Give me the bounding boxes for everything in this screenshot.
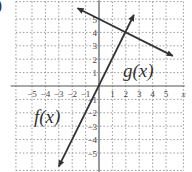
x-tick-label: −5 [27, 89, 37, 99]
x-axis-label: x [180, 89, 185, 99]
y-tick-label: 4 [93, 28, 98, 38]
y-tick-label: −5 [87, 149, 97, 159]
x-tick-label: −2 [67, 89, 77, 99]
x-tick-label: 3 [137, 89, 142, 99]
x-tick-label: 1 [110, 89, 115, 99]
x-tick-label: 2 [124, 89, 129, 99]
g-function-label: g(x) [123, 60, 154, 82]
x-tick-label: −4 [41, 89, 51, 99]
x-tick-label: 5 [164, 89, 169, 99]
y-tick-label: 3 [93, 41, 98, 51]
y-tick-label: 2 [93, 55, 98, 65]
y-tick-label: −4 [87, 135, 97, 145]
y-tick-label: −2 [87, 108, 97, 118]
coordinate-plane: −5−4−3−2−11234554321−1−2−3−4−5x [0, 0, 192, 172]
y-tick-label: −3 [87, 122, 97, 132]
x-tick-label: 4 [150, 89, 155, 99]
f-function-label: f(x) [34, 106, 60, 128]
x-tick-label: −3 [54, 89, 64, 99]
y-tick-label: 1 [93, 68, 98, 78]
